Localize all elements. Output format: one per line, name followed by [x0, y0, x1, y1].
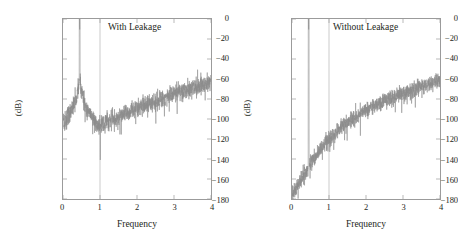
spectrum-trace-without-leakage: [292, 19, 440, 199]
xtick-label: 1: [97, 203, 101, 212]
chart-panel-without-leakage: 0 −20 −40 −60 −80 −100 −120 −140 −160 −1…: [229, 0, 458, 243]
xtick-label: 0: [289, 203, 293, 212]
ytick-label: −60: [400, 74, 458, 83]
ytick-label: −40: [400, 54, 458, 63]
ytick-label: −100: [171, 115, 229, 124]
ytick-label: 0: [400, 14, 458, 23]
panel-caption-with-leakage: With Leakage: [108, 22, 161, 32]
panel-caption-without-leakage: Without Leakage: [333, 22, 398, 32]
xtick-label: 2: [364, 203, 368, 212]
xtick-label: 1: [326, 203, 330, 212]
ytick-label: −120: [171, 135, 229, 144]
ytick-label: −80: [400, 95, 458, 104]
chart-panel-with-leakage: 0 −20 −40 −60 −80 −100 −120 −140 −160 −1…: [0, 0, 229, 243]
ytick-label: −40: [171, 54, 229, 63]
spectrum-trace-with-leakage: [63, 19, 211, 199]
x-axis-title: Frequency: [291, 219, 441, 229]
ytick-label: 0: [171, 14, 229, 23]
xtick-label: 3: [172, 203, 176, 212]
y-axis-title: (dB): [13, 88, 23, 128]
plot-area-with-leakage: [62, 18, 212, 200]
ytick-label: −160: [400, 176, 458, 185]
xtick-label: 4: [439, 203, 443, 212]
ytick-label: −140: [400, 155, 458, 164]
ytick-label: −80: [171, 95, 229, 104]
figure-root: 0 −20 −40 −60 −80 −100 −120 −140 −160 −1…: [0, 0, 458, 243]
y-axis-title: (dB): [242, 88, 252, 128]
ytick-label: −140: [171, 155, 229, 164]
ytick-label: −120: [400, 135, 458, 144]
ytick-label: −180: [171, 196, 229, 205]
x-axis-title: Frequency: [62, 219, 212, 229]
xtick-label: 0: [60, 203, 64, 212]
ytick-label: −160: [171, 176, 229, 185]
xtick-label: 3: [401, 203, 405, 212]
ytick-label: −100: [400, 115, 458, 124]
ytick-label: −20: [400, 34, 458, 43]
ytick-label: −60: [171, 74, 229, 83]
xtick-label: 4: [210, 203, 214, 212]
ytick-label: −20: [171, 34, 229, 43]
xtick-label: 2: [135, 203, 139, 212]
plot-area-without-leakage: [291, 18, 441, 200]
ytick-label: −180: [400, 196, 458, 205]
